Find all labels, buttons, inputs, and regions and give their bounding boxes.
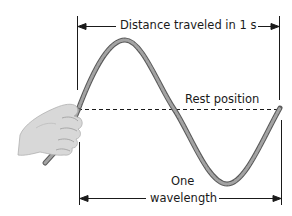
wavelength-label-line2: wavelength xyxy=(148,192,219,205)
distance-label: Distance traveled in 1 s xyxy=(118,19,258,32)
arrowhead-left-icon xyxy=(80,196,88,202)
arrowhead-right-icon xyxy=(273,196,281,202)
rest-position-label: Rest position xyxy=(185,93,259,106)
arrowhead-right-icon xyxy=(271,24,279,30)
wavelength-label-line1: One xyxy=(171,175,194,188)
hand-icon xyxy=(18,104,82,155)
wave-diagram xyxy=(0,0,292,216)
arrowhead-left-icon xyxy=(78,24,86,30)
